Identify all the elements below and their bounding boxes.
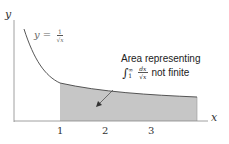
x-tick-3: 3 [148,125,154,136]
x-axis-label: x [211,111,217,124]
shaded-area [60,83,197,121]
annotation-integral: ∫ ∞ 1 dx √x not finite [122,65,189,80]
x-tick-2: 2 [102,125,108,136]
curve-label: y = 1 √x [34,28,64,43]
annotation-line1: Area representing [121,53,201,64]
plot-canvas [0,0,229,144]
x-tick-1: 1 [57,125,63,136]
y-axis-label: y [5,8,11,21]
